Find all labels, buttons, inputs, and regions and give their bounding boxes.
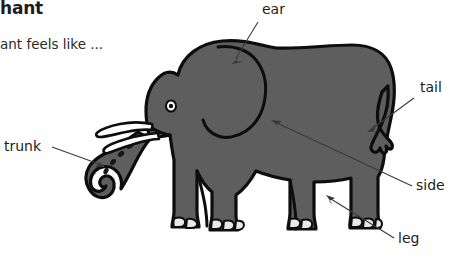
- toenail: [211, 220, 222, 229]
- toenail: [235, 221, 244, 230]
- toenail: [186, 219, 197, 228]
- callout-label-ear: ear: [262, 1, 285, 17]
- toenail: [223, 221, 234, 230]
- toenail: [351, 218, 362, 227]
- elephant-drawing: [86, 41, 394, 230]
- callout-label-leg: leg: [398, 230, 419, 246]
- elephant-worksheet-illustration: hant ant feels like ...: [0, 0, 459, 260]
- toenail: [289, 219, 300, 228]
- callout-label-side: side: [416, 177, 445, 193]
- leader-line-trunk: [52, 147, 99, 164]
- callout-label-tail: tail: [420, 79, 442, 95]
- elephant-pupil: [169, 104, 173, 108]
- worksheet-page: hant ant feels like ...: [0, 0, 459, 260]
- toenail: [173, 218, 185, 227]
- page-subtitle: ant feels like ...: [0, 36, 103, 52]
- toenail: [301, 220, 312, 229]
- page-title: hant: [0, 0, 43, 18]
- callout-label-trunk: trunk: [4, 138, 42, 154]
